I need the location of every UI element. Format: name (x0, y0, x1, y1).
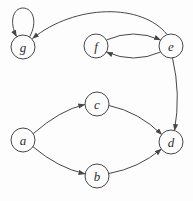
edge-a-c (33, 105, 85, 135)
graph-diagram: gfecadb (0, 0, 193, 201)
edge-c-d (109, 106, 162, 135)
node-label-d: d (168, 135, 175, 150)
graph-svg: gfecadb (0, 0, 193, 201)
node-label-c: c (94, 97, 100, 112)
edge-g-g (13, 8, 34, 37)
edge-f-e (106, 34, 160, 40)
node-label-a: a (20, 133, 27, 148)
edge-a-b (33, 147, 85, 174)
node-label-b: b (94, 169, 101, 184)
nodes-layer: gfecadb (11, 34, 183, 188)
edges-layer (13, 8, 178, 174)
node-label-e: e (168, 39, 174, 54)
edge-e-d (173, 58, 178, 131)
node-label-g: g (20, 40, 27, 55)
edge-e-f (106, 52, 160, 58)
edge-b-d (109, 149, 161, 174)
